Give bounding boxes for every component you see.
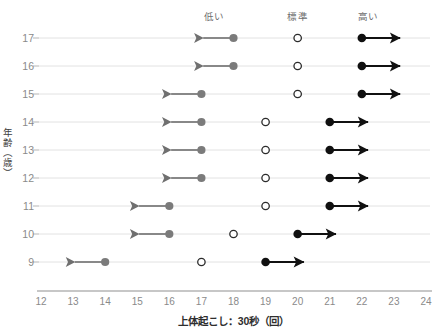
standard-marker (294, 34, 301, 41)
x-tick-label: 17 (188, 296, 214, 307)
x-tick-label: 20 (285, 296, 311, 307)
x-tick-label: 18 (221, 296, 247, 307)
low-marker (101, 258, 109, 266)
y-tick-label: 11 (8, 200, 34, 212)
low-marker (197, 174, 205, 182)
band-label-standard: 標準 (287, 9, 308, 23)
x-tick-label: 12 (28, 296, 54, 307)
x-tick-label: 24 (413, 296, 439, 307)
low-marker (197, 118, 205, 126)
high-marker (358, 90, 367, 99)
high-marker (325, 174, 334, 183)
standard-marker (198, 258, 205, 265)
x-tick-label: 13 (60, 296, 86, 307)
low-marker (229, 62, 237, 70)
x-axis-title: 上体起こし：30秒（回） (178, 313, 290, 328)
x-tick-label: 16 (156, 296, 182, 307)
x-tick-label: 19 (253, 296, 279, 307)
band-label-high: 高い (358, 9, 379, 23)
low-marker (165, 230, 173, 238)
standard-marker (230, 230, 237, 237)
high-marker (325, 202, 334, 211)
x-tick-label: 14 (92, 296, 118, 307)
y-tick-label: 9 (8, 256, 34, 268)
x-tick-label: 21 (317, 296, 343, 307)
y-tick-label: 16 (8, 60, 34, 72)
standard-marker (262, 174, 269, 181)
high-marker (325, 118, 334, 127)
x-tick-label: 23 (381, 296, 407, 307)
high-marker (261, 258, 270, 267)
y-axis-title: 年齢（歳） (2, 128, 12, 178)
x-tick-label: 22 (349, 296, 375, 307)
band-label-low: 低い (204, 9, 225, 23)
y-tick-label: 10 (8, 228, 34, 240)
y-tick-label: 15 (8, 88, 34, 100)
high-marker (293, 230, 302, 239)
standard-marker (262, 146, 269, 153)
chart-canvas (0, 0, 444, 336)
low-marker (197, 146, 205, 154)
standard-marker (294, 62, 301, 69)
standard-marker (294, 90, 301, 97)
y-tick-label: 14 (8, 116, 34, 128)
fitness-age-standards-chart: 低い標準高い1716151413121110912131415161718192… (0, 0, 444, 336)
x-tick-label: 15 (124, 296, 150, 307)
standard-marker (262, 202, 269, 209)
standard-marker (262, 118, 269, 125)
low-marker (165, 202, 173, 210)
low-marker (197, 90, 205, 98)
high-marker (358, 62, 367, 71)
high-marker (358, 34, 367, 43)
y-tick-label: 17 (8, 32, 34, 44)
low-marker (229, 34, 237, 42)
high-marker (325, 146, 334, 155)
